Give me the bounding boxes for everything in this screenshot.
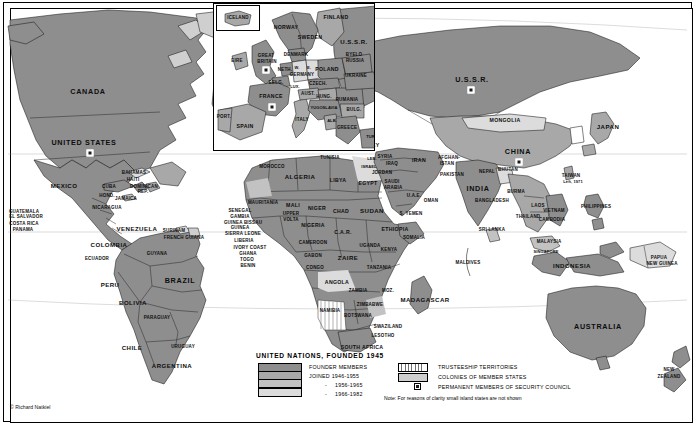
security-council-marker-ussr — [468, 87, 475, 94]
security-council-marker-france — [269, 104, 276, 111]
legend-swatch-column — [258, 363, 302, 396]
legend-label-security-council: PERMANENT MEMBERS OF SECURITY COUNCIL — [438, 384, 571, 390]
maldives-chain — [466, 248, 470, 276]
legend-dash-1966: - — [325, 391, 327, 397]
legend-label-1956-1965: 1956-1965 — [335, 382, 363, 388]
iceland-callout-box — [216, 5, 260, 31]
legend-swatch-colonies — [398, 373, 428, 382]
legend-swatch-1966-1982 — [258, 388, 302, 397]
legend-title: UNITED NATIONS, FOUNDED 1945 — [256, 352, 384, 359]
map-legend: UNITED NATIONS, FOUNDED 1945 FOUNDER MEM… — [253, 352, 613, 410]
security-council-marker-united-states — [87, 150, 94, 157]
legend-swatch-trusteeship — [398, 363, 428, 372]
legend-swatch-security-council — [414, 383, 421, 390]
legend-note: Note: For reasons of clarity small islan… — [384, 395, 522, 401]
legend-label-trusteeship: TRUSTEESHIP TERRITORIES — [438, 364, 518, 370]
security-council-marker-china — [516, 159, 523, 166]
europe-inset-panel: ICELANDNORWAYSWEDENFINLANDU.S.S.R.DENMAR… — [213, 3, 375, 151]
region-middle-east — [374, 148, 444, 216]
legend-label-colonies: COLONIES OF MEMBER STATES — [438, 374, 526, 380]
legend-label-joined-1946-1955: JOINED 1946-1955 — [309, 373, 359, 379]
region-south-america — [114, 226, 206, 384]
un-world-map-figure: CANADAUNITED STATESMEXICOBAHAMASHAITIDOM… — [0, 0, 695, 426]
region-north-america — [8, 10, 208, 186]
region-central-america — [34, 160, 160, 250]
security-council-marker-great-britain — [263, 67, 270, 74]
map-credit: © Richard Natkiel — [10, 404, 50, 410]
legend-label-founder: FOUNDER MEMBERS — [309, 364, 367, 370]
legend-label-1966-1982: 1966-1982 — [335, 391, 363, 397]
legend-dash-1956: - — [325, 382, 327, 388]
